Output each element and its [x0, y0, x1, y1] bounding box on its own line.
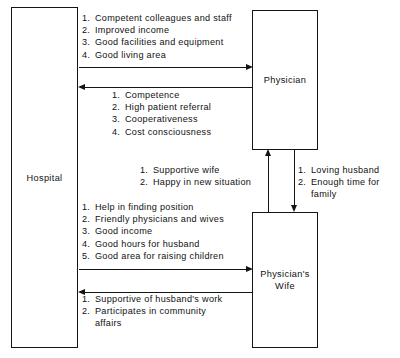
- list-item-text: Good area for raising children: [95, 251, 224, 261]
- arrow-wife-to-physician-head-icon: [265, 149, 271, 156]
- list-item-text: Good facilities and equipment: [95, 37, 224, 47]
- list-item: 4.Good hours for husband: [82, 238, 224, 250]
- list-item-number: 4.: [82, 49, 95, 61]
- list-item: 5.Good area for raising children: [82, 250, 224, 262]
- arrow-hospital-to-wife-line: [79, 269, 247, 270]
- arrow-hospital-to-physician-line: [79, 67, 247, 68]
- label-physician-to-hospital: 1.Competence2.High patient referral3.Coo…: [112, 89, 211, 138]
- list-item: 2.Improved income: [82, 24, 232, 36]
- node-physicians-wife: Physician's Wife: [252, 212, 318, 348]
- list-item: 3.Cooperativeness: [112, 113, 211, 125]
- list-item-text: Participates in community: [95, 306, 206, 316]
- list-item-number: 3.: [82, 36, 95, 48]
- arrow-physician-to-wife-head-icon: [291, 205, 297, 212]
- list-item: 3.Good income: [82, 225, 224, 237]
- list-item-text: Good hours for husband: [95, 239, 200, 249]
- label-hospital-to-physician: 1.Competent colleagues and staff2.Improv…: [82, 12, 232, 61]
- list-item-text: Cost consciousness: [125, 127, 211, 137]
- list-item: 2.High patient referral: [112, 101, 211, 113]
- list-item-text: Good income: [95, 226, 152, 236]
- list-item-text: Competent colleagues and staff: [95, 13, 232, 23]
- list-item-number: 1.: [298, 164, 311, 176]
- list-item: 1.Supportive wife: [140, 164, 251, 176]
- list-item-number: 3.: [112, 113, 125, 125]
- list-item: 1.Supportive of husband's work: [82, 293, 222, 305]
- label-physician-to-wife: 1.Loving husband2.Enough time forfamily: [298, 164, 380, 201]
- list-item: 2.Participates in community: [82, 305, 222, 317]
- list-item-text: Loving husband: [311, 165, 379, 175]
- list-item-text: Competence: [125, 90, 180, 100]
- list-item-text: affairs: [95, 318, 122, 328]
- label-hospital-to-wife: 1.Help in finding position2.Friendly phy…: [82, 201, 224, 262]
- list-item: affairs: [82, 317, 222, 329]
- list-item-number: 2.: [298, 176, 311, 188]
- list-item-text: Help in finding position: [95, 202, 194, 212]
- list-item-text: Cooperativeness: [125, 114, 198, 124]
- arrow-wife-to-physician-line: [268, 156, 269, 212]
- list-item-number: 2.: [82, 24, 95, 36]
- list-item: 1.Competence: [112, 89, 211, 101]
- list-item-number: 2.: [112, 101, 125, 113]
- list-item-text: Happy in new situation: [153, 177, 251, 187]
- list-item: 3.Good facilities and equipment: [82, 36, 232, 48]
- list-item-number: 1.: [112, 89, 125, 101]
- list-item: 4.Good living area: [82, 49, 232, 61]
- list-item: 1.Competent colleagues and staff: [82, 12, 232, 24]
- node-hospital: Hospital: [11, 7, 78, 348]
- list-item-number: 4.: [82, 238, 95, 250]
- list-item-text: Improved income: [95, 25, 169, 35]
- list-item-text: Good living area: [95, 50, 166, 60]
- list-item: 1.Loving husband: [298, 164, 380, 176]
- list-item-text: High patient referral: [125, 102, 211, 112]
- list-item-number: 4.: [112, 126, 125, 138]
- list-item-text: Friendly physicians and wives: [95, 214, 224, 224]
- node-physician: Physician: [252, 10, 318, 150]
- arrow-physician-to-hospital-line: [85, 87, 252, 88]
- list-item-number: 1.: [82, 12, 95, 24]
- arrow-physician-to-wife-line: [294, 150, 295, 206]
- arrow-hospital-to-wife-head-icon: [246, 266, 253, 272]
- label-wife-to-physician: 1.Supportive wife2.Happy in new situatio…: [140, 164, 251, 188]
- list-item: 1.Help in finding position: [82, 201, 224, 213]
- list-item: 2.Happy in new situation: [140, 176, 251, 188]
- list-item: 2.Enough time for: [298, 176, 380, 188]
- arrow-physician-to-hospital-head-icon: [78, 84, 85, 90]
- list-item-text: family: [311, 189, 337, 199]
- list-item: family: [298, 188, 380, 200]
- list-item: 2.Friendly physicians and wives: [82, 213, 224, 225]
- label-wife-to-hospital: 1.Supportive of husband's work2.Particip…: [82, 293, 222, 330]
- list-item-number: 1.: [140, 164, 153, 176]
- list-item-number: 2.: [140, 176, 153, 188]
- list-item-text: Supportive of husband's work: [95, 294, 222, 304]
- list-item-number: 5.: [82, 250, 95, 262]
- list-item-number: 1.: [82, 201, 95, 213]
- diagram-canvas: Hospital Physician Physician's Wife 1.Co…: [0, 0, 400, 358]
- node-hospital-label: Hospital: [27, 172, 63, 184]
- arrow-hospital-to-physician-head-icon: [246, 64, 253, 70]
- list-item-number: 2.: [82, 213, 95, 225]
- list-item-number: 3.: [82, 225, 95, 237]
- node-physician-label: Physician: [264, 74, 306, 86]
- list-item-text: Enough time for: [311, 177, 380, 187]
- list-item-text: Supportive wife: [153, 165, 220, 175]
- list-item-number: 2.: [82, 305, 95, 317]
- list-item: 4.Cost consciousness: [112, 126, 211, 138]
- list-item-number: 1.: [82, 293, 95, 305]
- node-physicians-wife-label: Physician's Wife: [253, 268, 317, 292]
